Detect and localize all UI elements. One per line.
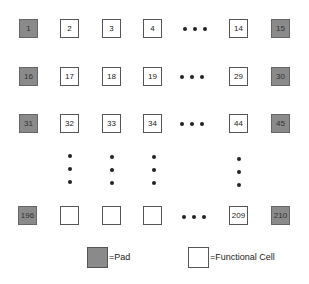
functional-cell-33: 33 [102, 114, 121, 133]
legend-pad-label: =Pad [109, 252, 130, 262]
functional-cell-4: 4 [143, 19, 162, 38]
functional-cell-19: 19 [143, 67, 162, 86]
horizontal-ellipsis [180, 121, 204, 127]
functional-cell-18: 18 [102, 67, 121, 86]
pad-cell-30: 30 [271, 67, 290, 86]
vertical-ellipsis [67, 154, 73, 184]
functional-cell [60, 206, 79, 225]
vertical-ellipsis [236, 157, 242, 187]
functional-cell-44: 44 [229, 114, 248, 133]
vertical-ellipsis [109, 155, 115, 185]
functional-cell-209: 209 [229, 206, 248, 225]
horizontal-ellipsis [183, 26, 207, 32]
horizontal-ellipsis [180, 74, 204, 80]
pad-cell-15: 15 [271, 19, 290, 38]
functional-cell-29: 29 [229, 67, 248, 86]
pad-cell-31: 31 [19, 114, 38, 133]
functional-cell [102, 206, 121, 225]
functional-cell-14: 14 [229, 19, 248, 38]
pad-cell-1: 1 [19, 19, 38, 38]
functional-cell-3: 3 [102, 19, 121, 38]
legend-functional-swatch [188, 247, 209, 268]
legend-pad-swatch [87, 247, 108, 268]
pad-cell-210: 210 [271, 206, 290, 225]
functional-cell-2: 2 [60, 19, 79, 38]
functional-cell-34: 34 [143, 114, 162, 133]
functional-cell-17: 17 [60, 67, 79, 86]
pad-cell-45: 45 [271, 114, 290, 133]
functional-cell [143, 206, 162, 225]
pad-cell-16: 16 [19, 67, 38, 86]
vertical-ellipsis [151, 155, 157, 185]
horizontal-ellipsis [182, 214, 206, 220]
pad-cell-196: 196 [18, 206, 37, 225]
functional-cell-32: 32 [60, 114, 79, 133]
legend-functional-label: =Functional Cell [210, 252, 275, 262]
